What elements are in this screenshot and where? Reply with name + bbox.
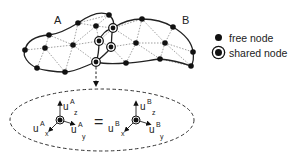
free-node-dot <box>106 12 112 18</box>
free-node-dot <box>75 20 81 26</box>
mesh-diagram: A B u A z <box>0 0 293 158</box>
shared-node-icon <box>212 47 226 59</box>
free-node-dot <box>62 69 68 75</box>
free-node-dot <box>93 23 99 29</box>
free-node-dot <box>139 16 145 22</box>
svg-text:B: B <box>147 98 152 105</box>
free-node-dot <box>42 45 48 51</box>
svg-text:x: x <box>45 130 49 137</box>
free-node-dot <box>188 63 194 69</box>
free-node-dot <box>22 47 28 53</box>
svg-text:x: x <box>121 130 125 137</box>
free-node-dot <box>34 65 40 71</box>
displacement-label-b-z: u B z <box>140 98 156 116</box>
svg-text:A: A <box>70 98 75 105</box>
free-node-dot <box>157 56 163 62</box>
free-node-dot <box>162 40 168 46</box>
region-b-label: B <box>182 14 189 26</box>
legend-item-free-node: free node <box>212 30 287 45</box>
free-node-dot <box>123 60 129 66</box>
displacement-label-b-y: u B y <box>149 121 164 141</box>
svg-text:u: u <box>140 101 146 112</box>
svg-text:u: u <box>33 123 39 134</box>
svg-text:y: y <box>160 133 164 141</box>
displacement-label-a-y: u A y <box>71 121 86 141</box>
legend-item-shared-node: shared node <box>212 45 287 60</box>
shared-node-ringed-dot <box>95 37 104 46</box>
svg-text:u: u <box>63 101 69 112</box>
shared-node-ringed-dot <box>109 24 118 33</box>
free-node-dot <box>170 24 176 30</box>
displacement-label-b-x: u B x <box>108 120 125 137</box>
free-node-dot <box>133 40 139 46</box>
free-node-icon <box>212 32 226 44</box>
svg-text:A: A <box>40 120 45 127</box>
displacement-label-a-x: u A x <box>33 120 49 137</box>
svg-text:u: u <box>149 124 155 135</box>
svg-text:B: B <box>156 121 161 128</box>
displacement-label-a-z: u A z <box>63 98 78 116</box>
svg-text:z: z <box>152 109 156 116</box>
free-node-dot <box>46 32 52 38</box>
svg-text:z: z <box>74 109 78 116</box>
svg-text:y: y <box>82 133 86 141</box>
legend-label: shared node <box>229 47 287 59</box>
legend-label: free node <box>229 32 273 44</box>
shared-nodes <box>92 24 118 67</box>
svg-text:B: B <box>115 120 120 127</box>
shared-node-ringed-dot <box>107 43 116 52</box>
free-node-dot <box>190 49 196 55</box>
shared-node-ringed-dot <box>92 58 101 67</box>
equals-sign: = <box>94 113 103 130</box>
node-a-detail <box>50 103 73 130</box>
legend: free node shared node <box>212 30 287 60</box>
free-node-dot <box>70 42 76 48</box>
region-a-label: A <box>54 14 62 26</box>
svg-text:u: u <box>71 124 77 135</box>
svg-text:u: u <box>108 123 114 134</box>
svg-text:A: A <box>78 121 83 128</box>
